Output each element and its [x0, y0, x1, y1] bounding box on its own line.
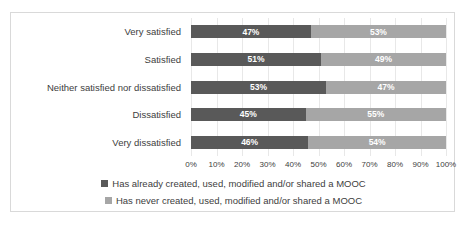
- category-label: Satisfied: [145, 53, 181, 66]
- x-tick-label: 50%: [310, 159, 326, 171]
- bar-data-label: 47%: [378, 83, 395, 92]
- x-tick-label: 0%: [185, 159, 197, 171]
- bar-data-label: 53%: [250, 83, 267, 92]
- bar-segment-series-1[interactable]: 47%: [191, 25, 311, 38]
- category-label: Very dissatisfied: [112, 136, 181, 149]
- bar-row: 45%55%: [191, 108, 446, 121]
- bar-data-label: 55%: [367, 110, 384, 119]
- bar-segment-series-2[interactable]: 54%: [308, 136, 446, 149]
- x-tick-label: 30%: [259, 159, 275, 171]
- bar-segment-series-1[interactable]: 46%: [191, 136, 308, 149]
- bar-segment-series-2[interactable]: 55%: [306, 108, 446, 121]
- legend-item-series-1[interactable]: Has already created, used, modified and/…: [11, 175, 456, 192]
- bar-segment-series-1[interactable]: 53%: [191, 81, 326, 94]
- bar-segment-series-1[interactable]: 45%: [191, 108, 306, 121]
- value-axis-labels: 0%10%20%30%40%50%60%70%80%90%100%: [191, 159, 446, 171]
- x-tick-label: 90%: [412, 159, 428, 171]
- bar-segment-series-1[interactable]: 51%: [191, 53, 321, 66]
- x-tick-label: 20%: [234, 159, 250, 171]
- bar-row: 46%54%: [191, 136, 446, 149]
- bar-data-label: 51%: [248, 55, 265, 64]
- x-tick-label: 60%: [336, 159, 352, 171]
- category-label: Very satisfied: [125, 25, 182, 38]
- legend-label: Has already created, used, modified and/…: [112, 178, 365, 189]
- bar-data-label: 53%: [370, 28, 387, 37]
- x-tick-label: 80%: [387, 159, 403, 171]
- bar-row: 51%49%: [191, 53, 446, 66]
- legend-item-series-2[interactable]: Has never created, used, modified and/or…: [11, 192, 456, 209]
- bar-data-label: 54%: [369, 138, 386, 147]
- x-tick-label: 10%: [208, 159, 224, 171]
- chart-legend: Has already created, used, modified and/…: [11, 175, 456, 209]
- category-label: Dissatisfied: [132, 108, 181, 121]
- bar-data-label: 46%: [241, 138, 258, 147]
- legend-swatch-icon: [101, 180, 108, 187]
- bar-segment-series-2[interactable]: 49%: [321, 53, 446, 66]
- gridline-100pct: [446, 18, 447, 156]
- legend-swatch-icon: [105, 197, 112, 204]
- bar-series-group: 47%53%51%49%53%47%45%55%46%54%: [191, 18, 446, 156]
- category-axis-labels: Very satisfiedSatisfiedNeither satisfied…: [11, 18, 187, 156]
- chart-frame: Very satisfiedSatisfiedNeither satisfied…: [10, 12, 455, 212]
- bar-row: 47%53%: [191, 25, 446, 38]
- bar-segment-series-2[interactable]: 53%: [311, 25, 446, 38]
- bar-data-label: 45%: [240, 110, 257, 119]
- x-tick-label: 100%: [436, 159, 456, 171]
- bar-segment-series-2[interactable]: 47%: [326, 81, 446, 94]
- category-label: Neither satisfied nor dissatisfied: [47, 81, 181, 94]
- x-tick-label: 40%: [285, 159, 301, 171]
- bar-data-label: 49%: [375, 55, 392, 64]
- plot-area: 47%53%51%49%53%47%45%55%46%54%: [191, 18, 446, 156]
- bar-data-label: 47%: [242, 28, 259, 37]
- legend-label: Has never created, used, modified and/or…: [116, 195, 362, 206]
- x-tick-label: 70%: [361, 159, 377, 171]
- bar-row: 53%47%: [191, 81, 446, 94]
